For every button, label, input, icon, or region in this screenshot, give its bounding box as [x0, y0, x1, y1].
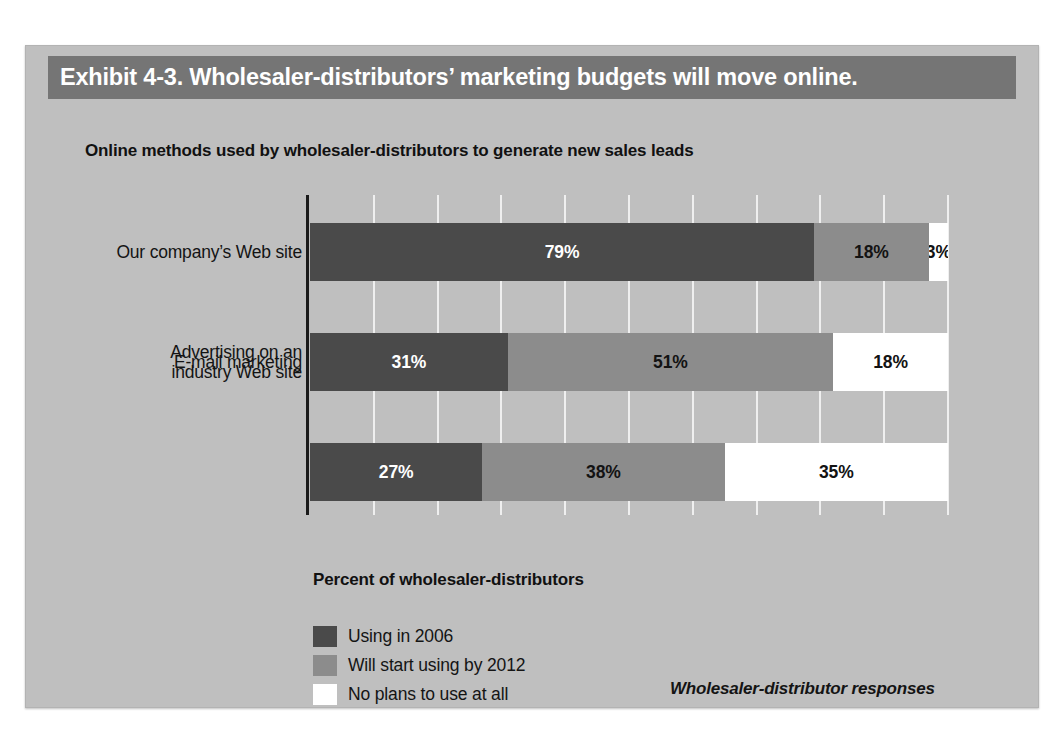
value-axis-line: [306, 195, 309, 515]
legend-item: Will start using by 2012: [313, 652, 813, 679]
exhibit-title-bar: Exhibit 4-3. Wholesaler-distributors’ ma…: [48, 56, 1016, 99]
category-label: Advertising on anindustry Web site: [32, 342, 302, 382]
bar-segment: 3%: [929, 223, 948, 281]
bar-row: 27%38%35%: [310, 443, 948, 501]
legend-label: Will start using by 2012: [348, 655, 525, 676]
value-axis-title: Percent of wholesaler-distributors: [313, 570, 584, 590]
bar-segment: 35%: [725, 443, 948, 501]
category-label-line: Advertising on an: [32, 342, 302, 362]
category-axis-labels: Our company’s Web siteE-mail marketingAd…: [25, 195, 302, 515]
exhibit-screenshot: Exhibit 4-3. Wholesaler-distributors’ ma…: [0, 0, 1064, 755]
category-label: Our company’s Web site: [32, 242, 302, 262]
bar-row: 31%51%18%: [310, 333, 948, 391]
bar-segment: 79%: [310, 223, 814, 281]
legend-swatch: [313, 626, 337, 647]
category-label-line: Our company’s Web site: [32, 242, 302, 262]
bar-segment: 18%: [833, 333, 948, 391]
bar-segment: 27%: [310, 443, 482, 501]
bar-segment: 18%: [814, 223, 929, 281]
bar-segment: 31%: [310, 333, 508, 391]
category-label-line: industry Web site: [32, 362, 302, 382]
source-note: Wholesaler-distributor responses: [670, 679, 935, 699]
exhibit-title: Exhibit 4-3. Wholesaler-distributors’ ma…: [48, 64, 858, 91]
legend-swatch: [313, 655, 337, 676]
bar-row: 79%18%3%: [310, 223, 948, 281]
bar-segment: 38%: [482, 443, 724, 501]
plot-area: 79%18%3%31%51%18%27%38%35%: [310, 195, 948, 515]
chart-subtitle: Online methods used by wholesaler-distri…: [85, 141, 694, 161]
stacked-bar-chart: Our company’s Web siteE-mail marketingAd…: [25, 195, 1039, 515]
exhibit-panel: Exhibit 4-3. Wholesaler-distributors’ ma…: [25, 45, 1039, 708]
legend-swatch: [313, 684, 337, 705]
legend-label: No plans to use at all: [348, 684, 508, 705]
bar-segment: 51%: [508, 333, 833, 391]
legend-label: Using in 2006: [348, 626, 453, 647]
legend-item: Using in 2006: [313, 623, 813, 650]
